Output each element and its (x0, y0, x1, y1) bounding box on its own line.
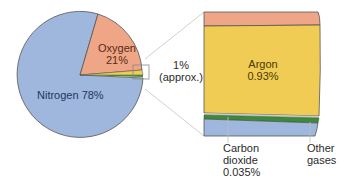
pie-chart (17, 11, 143, 137)
connector-bottom (145, 89, 204, 136)
label-argon-pct: 0.93% (247, 70, 278, 82)
connector-top (145, 12, 204, 59)
label-oxygen-pct: 21% (106, 54, 128, 66)
label-co2-line2: dioxide (223, 154, 258, 166)
label-other-line2: gases (307, 154, 337, 166)
inset-oxygen (204, 12, 320, 26)
label-other-line1: Other (307, 142, 335, 154)
label-co2-line1: Carbon (223, 142, 259, 154)
label-co2-line3: 0.035% (223, 166, 261, 178)
atmosphere-composition-chart: Nitrogen 78% Oxygen 21% 1% (approx.) Arg… (0, 0, 353, 188)
label-oxygen-name: Oxygen (98, 42, 136, 54)
label-argon-name: Argon (248, 58, 277, 70)
label-approx-pct: 1% (173, 59, 189, 71)
label-approx-sub: (approx.) (159, 71, 203, 83)
label-nitrogen: Nitrogen 78% (37, 89, 104, 101)
